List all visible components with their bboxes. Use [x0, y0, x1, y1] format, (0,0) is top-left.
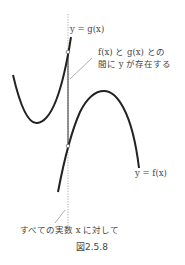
leader-between [70, 58, 92, 79]
f-point [66, 144, 70, 148]
label-between-line2: 間に y が存在する [98, 57, 171, 69]
g-point [66, 50, 70, 54]
label-between-line1: f(x) と g(x) との [98, 45, 165, 57]
label-g-curve: y = g(x) [70, 24, 104, 34]
label-f-curve: y = f(x) [135, 168, 167, 178]
f-curve [58, 91, 139, 192]
label-for-all: すべての実数 x に対して [20, 223, 119, 235]
figure-caption: 図2.5.8 [76, 240, 108, 253]
g-curve [13, 37, 71, 123]
leader-forall [55, 210, 65, 223]
